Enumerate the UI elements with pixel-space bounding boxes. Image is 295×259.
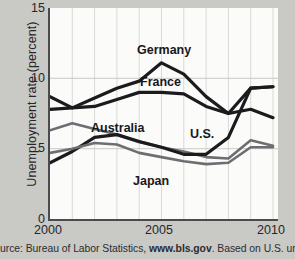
plot-area [48, 8, 278, 221]
caption-tail: . Based on U.S. unemployment [212, 243, 295, 254]
vertical-gridlines [72, 8, 273, 219]
x-tick-2010: 2010 [248, 224, 294, 237]
x-tick-2000: 2000 [25, 224, 71, 237]
y-tick-5: 5 [19, 142, 45, 155]
x-tick-2005: 2005 [136, 224, 182, 237]
series-label-germany: Germany [137, 44, 191, 57]
series-label-us: U.S. [190, 128, 214, 141]
caption-lead: urce: Bureau of Labor Statistics, [0, 243, 149, 254]
source-caption: urce: Bureau of Labor Statistics, www.bl… [0, 243, 295, 254]
unemployment-rate-chart-figure: Unemployment rate (percent) 15 10 5 0 [0, 0, 295, 259]
series-label-japan: Japan [133, 175, 169, 188]
series-label-france: France [140, 76, 181, 89]
y-tick-15: 15 [19, 2, 45, 15]
y-tick-10: 10 [19, 72, 45, 85]
y-axis-tick-labels: 15 10 5 0 [18, 0, 45, 259]
caption-url: www.bls.gov [149, 243, 212, 254]
series-label-australia: Australia [91, 122, 145, 135]
